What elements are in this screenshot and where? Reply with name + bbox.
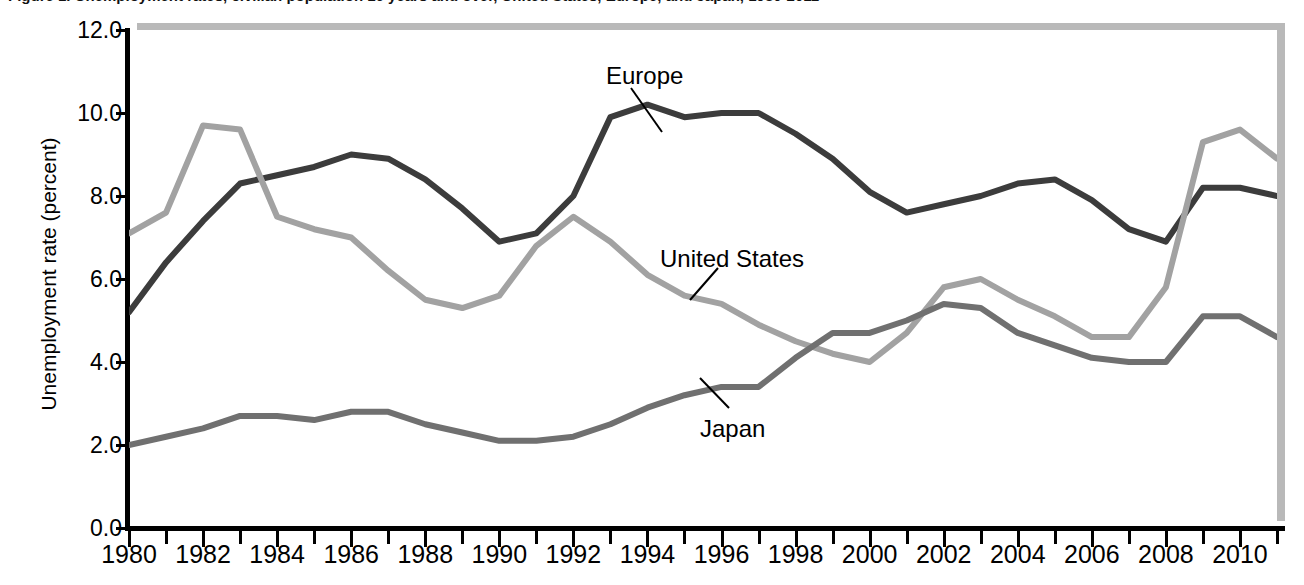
y-axis-tick-label: 0.0 bbox=[38, 515, 122, 542]
y-axis-tick-mark bbox=[116, 112, 129, 115]
x-axis-tick-label: 1996 bbox=[694, 540, 750, 569]
x-axis-minor-tick bbox=[906, 531, 909, 544]
y-axis-tick-mark bbox=[116, 361, 129, 364]
x-axis-minor-tick bbox=[239, 531, 242, 544]
x-axis-minor-tick bbox=[1202, 531, 1205, 544]
x-axis-tick-label: 1990 bbox=[472, 540, 528, 569]
x-axis-minor-tick bbox=[535, 531, 538, 544]
x-axis-tick-label: 1980 bbox=[101, 540, 157, 569]
y-axis-tick-mark bbox=[116, 29, 129, 32]
x-axis-tick-label: 1998 bbox=[768, 540, 824, 569]
x-axis-minor-tick bbox=[461, 531, 464, 544]
x-axis-tick-label: 2000 bbox=[842, 540, 898, 569]
x-axis-tick-label: 2008 bbox=[1138, 540, 1194, 569]
y-axis-tick-label: 8.0 bbox=[38, 183, 122, 210]
line-series-svg bbox=[129, 30, 1277, 528]
series-label-japan: Japan bbox=[700, 415, 765, 443]
line-series-united-states bbox=[129, 125, 1277, 362]
series-canvas bbox=[129, 30, 1277, 528]
x-axis-minor-tick bbox=[165, 531, 168, 544]
x-axis-minor-tick bbox=[1128, 531, 1131, 544]
x-axis-tick-label: 1988 bbox=[397, 540, 453, 569]
x-axis-minor-tick bbox=[683, 531, 686, 544]
y-axis-tick-label: 2.0 bbox=[38, 432, 122, 459]
line-series-europe bbox=[129, 105, 1277, 313]
figure-title: Figure 1. Unemployment rates, civilian p… bbox=[8, 0, 1298, 5]
y-axis-tick-labels: 0.02.04.06.08.010.012.0 bbox=[38, 0, 122, 585]
x-axis-tick-label: 1986 bbox=[323, 540, 379, 569]
x-axis-minor-tick bbox=[980, 531, 983, 544]
y-axis-tick-mark bbox=[116, 278, 129, 281]
x-axis-tick-label: 1982 bbox=[175, 540, 231, 569]
x-axis-tick-label: 1992 bbox=[546, 540, 602, 569]
series-label-europe: Europe bbox=[606, 62, 683, 90]
x-axis-minor-tick bbox=[313, 531, 316, 544]
y-axis-tick-mark bbox=[116, 444, 129, 447]
x-axis-tick-label: 2010 bbox=[1212, 540, 1268, 569]
x-axis-minor-tick bbox=[832, 531, 835, 544]
y-axis-tick-label: 6.0 bbox=[38, 266, 122, 293]
y-axis-tick-label: 10.0 bbox=[38, 100, 122, 127]
x-axis-minor-tick bbox=[758, 531, 761, 544]
x-axis-minor-tick bbox=[1054, 531, 1057, 544]
x-axis-minor-tick bbox=[1276, 531, 1279, 544]
x-axis-minor-tick bbox=[609, 531, 612, 544]
y-axis-tick-label: 4.0 bbox=[38, 349, 122, 376]
x-axis-tick-label: 2004 bbox=[990, 540, 1046, 569]
y-axis-tick-mark bbox=[116, 527, 129, 530]
x-axis-tick-label: 1994 bbox=[620, 540, 676, 569]
x-axis-tick-label: 1984 bbox=[249, 540, 305, 569]
figure-root: Figure 1. Unemployment rates, civilian p… bbox=[0, 0, 1304, 585]
x-axis-minor-tick bbox=[387, 531, 390, 544]
series-label-united-states: United States bbox=[660, 245, 804, 273]
y-axis-tick-label: 12.0 bbox=[38, 17, 122, 44]
x-axis-tick-label: 2002 bbox=[916, 540, 972, 569]
y-axis-tick-mark bbox=[116, 195, 129, 198]
x-axis-tick-label: 2006 bbox=[1064, 540, 1120, 569]
